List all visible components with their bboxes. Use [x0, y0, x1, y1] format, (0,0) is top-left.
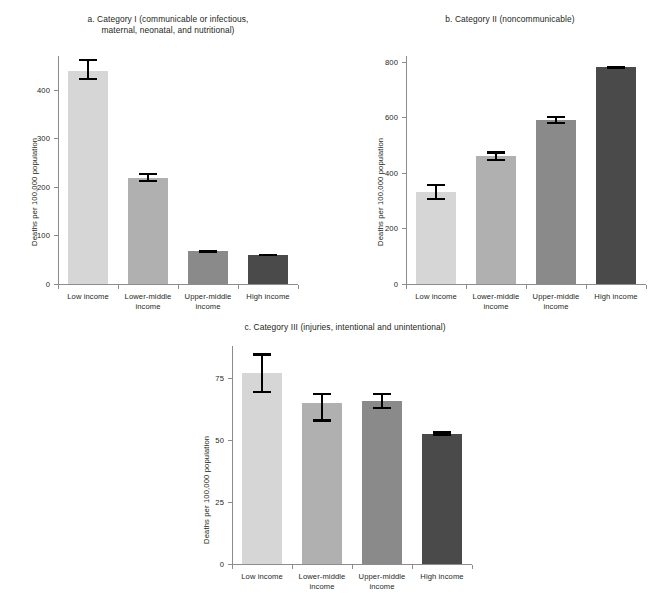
x-axis-tick-label: Upper-middle income: [526, 292, 586, 311]
panel-a-plot-area: 0100200300400Low incomeLower-middle inco…: [58, 56, 298, 284]
x-axis-tick-label: Low income: [232, 572, 292, 582]
x-axis-tick-label: High income: [412, 572, 472, 582]
error-bar-cap-top: [427, 184, 445, 186]
y-axis-line: [406, 56, 407, 284]
error-bar: [427, 184, 445, 200]
x-axis-tick: [232, 565, 233, 569]
x-axis-tick: [526, 285, 527, 289]
error-bar: [139, 173, 157, 182]
panel-b-plot-area: 0200400600800Low incomeLower-middle inco…: [406, 56, 646, 284]
error-bar: [313, 393, 331, 421]
y-axis-tick: [228, 378, 232, 379]
y-axis-tick: [54, 90, 58, 91]
bar: [422, 434, 462, 564]
error-bar-cap-top: [313, 393, 331, 395]
y-axis-tick: [402, 228, 406, 229]
error-bar-cap-bottom: [607, 67, 625, 69]
error-bar-cap-bottom: [259, 254, 277, 256]
panel-c-title: c. Category III (injuries, intentional a…: [190, 322, 500, 333]
bar: [536, 120, 576, 284]
axes: 0255075Low incomeLower-middle incomeUppe…: [232, 346, 472, 564]
y-axis-tick-label: 400: [20, 85, 50, 94]
y-axis-tick-label: 75: [194, 374, 224, 383]
error-bar-cap-bottom: [373, 407, 391, 409]
x-axis-tick-label: High income: [238, 292, 298, 302]
x-axis-tick-label: Upper-middle income: [352, 572, 412, 591]
x-axis-tick-label: Low income: [58, 292, 118, 302]
y-axis-tick: [402, 117, 406, 118]
y-axis-tick-label: 25: [194, 498, 224, 507]
error-bar-cap-bottom: [427, 198, 445, 200]
error-bar-cap-bottom: [313, 419, 331, 421]
error-bar-cap-top: [373, 393, 391, 395]
y-axis-tick-label: 300: [20, 134, 50, 143]
y-axis-tick-label: 800: [368, 57, 398, 66]
error-bar: [607, 66, 625, 69]
error-bar-cap-top: [253, 353, 271, 355]
y-axis-tick-label: 400: [368, 168, 398, 177]
error-bar-cap-top: [79, 59, 97, 61]
x-axis-tick: [178, 285, 179, 289]
bar: [68, 71, 108, 284]
y-axis-tick: [228, 502, 232, 503]
error-bar-cap-top: [487, 151, 505, 153]
error-bar-cap-bottom: [253, 391, 271, 393]
x-axis-tick-label: High income: [586, 292, 646, 302]
panel-category-ii: b. Category II (noncommunicable) Deaths …: [370, 14, 650, 324]
x-axis-tick: [412, 565, 413, 569]
y-axis-tick: [54, 187, 58, 188]
error-bar-cap-bottom: [547, 122, 565, 124]
error-bar-stem: [87, 59, 89, 80]
y-axis-tick: [402, 62, 406, 63]
error-bar: [199, 250, 217, 253]
y-axis-tick-label: 0: [368, 280, 398, 289]
error-bar: [487, 151, 505, 160]
error-bar-cap-bottom: [487, 159, 505, 161]
panel-c-plot-area: 0255075Low incomeLower-middle incomeUppe…: [232, 346, 472, 564]
panel-a-y-axis-label: Deaths per 100,000 population: [30, 138, 39, 246]
x-axis-tick-label: Low income: [406, 292, 466, 302]
error-bar: [259, 254, 277, 256]
x-axis-tick: [586, 285, 587, 289]
y-axis-line: [58, 56, 59, 284]
axes: 0200400600800Low incomeLower-middle inco…: [406, 56, 646, 284]
error-bar-cap-top: [139, 173, 157, 175]
error-bar: [79, 59, 97, 80]
panel-a-title: a. Category I (communicable or infectiou…: [18, 14, 318, 36]
x-axis-tick: [352, 565, 353, 569]
x-axis-tick: [292, 565, 293, 569]
bar: [128, 178, 168, 284]
error-bar-cap-bottom: [199, 251, 217, 253]
panel-c-y-axis-label: Deaths per 100,000 population: [202, 436, 211, 544]
error-bar: [433, 431, 451, 436]
y-axis-line: [232, 346, 233, 564]
x-axis-tick: [406, 285, 407, 289]
bar: [596, 67, 636, 284]
error-bar: [373, 393, 391, 409]
bar: [476, 156, 516, 284]
x-axis-tick: [118, 285, 119, 289]
error-bar-stem: [321, 393, 323, 421]
bar: [188, 251, 228, 284]
x-axis-tick-label: Lower-middle income: [466, 292, 526, 311]
error-bar: [253, 353, 271, 393]
y-axis-tick-label: 600: [368, 113, 398, 122]
y-axis-tick-label: 200: [368, 224, 398, 233]
x-axis-tick: [472, 565, 473, 569]
panel-b-title: b. Category II (noncommunicable): [370, 14, 650, 25]
x-axis-tick-label: Lower-middle income: [292, 572, 352, 591]
axes: 0100200300400Low incomeLower-middle inco…: [58, 56, 298, 284]
bar: [242, 373, 282, 564]
y-axis-tick: [54, 138, 58, 139]
x-axis-tick: [58, 285, 59, 289]
y-axis-tick-label: 0: [20, 280, 50, 289]
panel-category-iii: c. Category III (injuries, intentional a…: [190, 322, 500, 602]
x-axis-tick: [298, 285, 299, 289]
figure-three-panel-bar-charts: a. Category I (communicable or infectiou…: [0, 0, 658, 604]
x-axis-tick-label: Lower-middle income: [118, 292, 178, 311]
y-axis-tick: [402, 173, 406, 174]
error-bar: [547, 116, 565, 125]
x-axis-tick: [238, 285, 239, 289]
bar: [416, 192, 456, 284]
error-bar-cap-top: [547, 116, 565, 118]
